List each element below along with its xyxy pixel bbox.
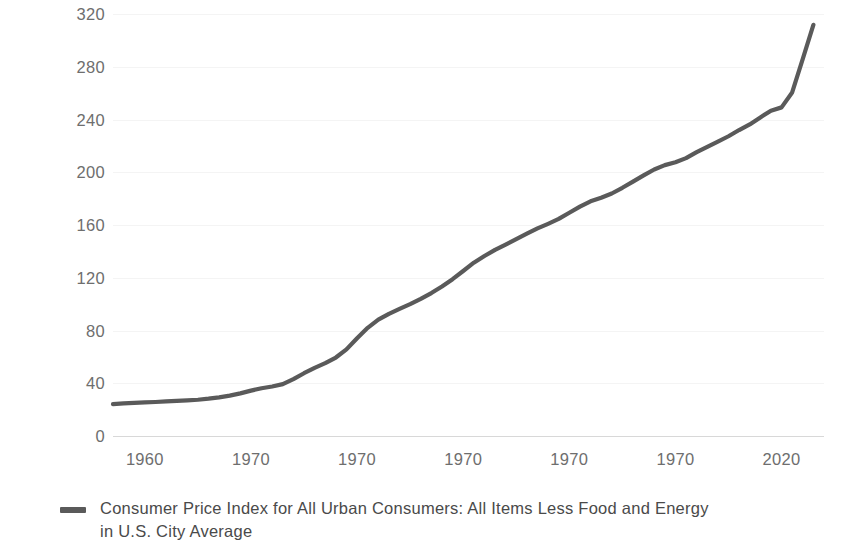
y-tick-label: 40 — [57, 374, 105, 393]
y-tick-label: 80 — [57, 321, 105, 340]
y-tick-label: 120 — [57, 268, 105, 287]
line-chart: Index 1982-1984=100 04080120160200240280… — [0, 0, 841, 548]
legend-swatch-icon — [60, 507, 86, 513]
x-tick-label: 1970 — [232, 450, 270, 469]
x-tick-label: 1970 — [338, 450, 376, 469]
y-tick-label: 280 — [57, 57, 105, 76]
x-tick-label: 1960 — [126, 450, 164, 469]
y-tick-label: 240 — [57, 110, 105, 129]
y-tick-label: 160 — [57, 216, 105, 235]
y-tick-label: 320 — [57, 5, 105, 24]
series-line-cpi-core — [113, 25, 813, 404]
legend-label: Consumer Price Index for All Urban Consu… — [100, 497, 720, 543]
y-tick-label: 200 — [57, 163, 105, 182]
x-tick-label: 2020 — [763, 450, 801, 469]
y-tick-label: 0 — [57, 427, 105, 446]
series-layer — [113, 14, 824, 436]
legend: Consumer Price Index for All Urban Consu… — [60, 497, 820, 543]
x-tick-label: 1970 — [444, 450, 482, 469]
x-tick-label: 1970 — [656, 450, 694, 469]
x-tick-label: 1970 — [550, 450, 588, 469]
x-axis-line — [113, 436, 824, 437]
y-axis-tick-labels: 04080120160200240280320 — [55, 0, 105, 548]
plot-area — [113, 14, 824, 436]
